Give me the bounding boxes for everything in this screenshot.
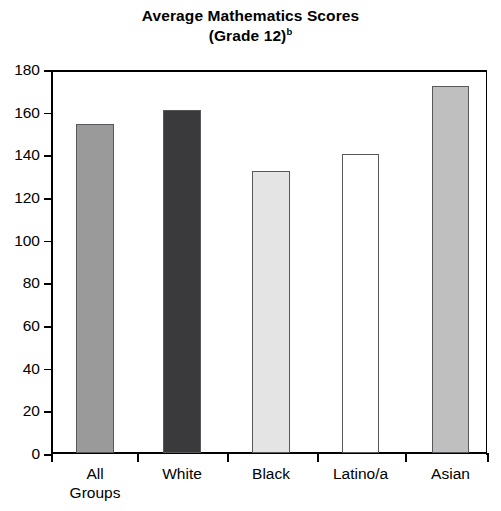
bar-latino-a <box>342 154 379 453</box>
x-axis-label-line1: White <box>162 465 202 482</box>
y-axis-line <box>51 70 53 455</box>
y-axis-tick-label: 120 <box>14 190 40 206</box>
y-axis-tick-label: 0 <box>31 446 40 462</box>
chart-subtitle: (Grade 12)b <box>0 26 501 46</box>
x-axis-label-line1: All <box>86 465 103 482</box>
y-axis-tick-label: 20 <box>23 404 40 420</box>
y-axis-tick <box>44 198 52 200</box>
chart-title-block: Average Mathematics Scores (Grade 12)b <box>0 6 501 46</box>
y-axis-tick-label: 80 <box>23 276 40 292</box>
x-axis-tick <box>487 453 489 462</box>
y-axis-tick <box>44 155 52 157</box>
bar-black <box>252 171 290 453</box>
x-axis-label-line1: Black <box>252 465 290 482</box>
plot-frame-right <box>486 70 488 455</box>
y-axis-tick <box>44 113 52 115</box>
x-axis-tick <box>227 453 229 462</box>
y-axis-tick <box>44 369 52 371</box>
x-axis-tick <box>317 453 319 462</box>
y-axis-tick-label: 140 <box>14 148 40 164</box>
y-axis-tick <box>44 70 52 72</box>
y-axis-tick-label: 60 <box>23 318 40 334</box>
chart-subtitle-text: (Grade 12) <box>209 27 287 44</box>
y-axis-tick <box>44 283 52 285</box>
bar-chart-figure: Average Mathematics Scores (Grade 12)b 0… <box>0 0 501 511</box>
x-axis-label-asian: Asian <box>391 464 501 483</box>
y-axis-tick-label: 100 <box>14 233 40 249</box>
y-axis-tick <box>44 326 52 328</box>
bar-all-groups <box>76 124 114 453</box>
x-axis-label-line1: Latino/a <box>333 465 388 482</box>
y-axis-tick-label: 180 <box>14 62 40 78</box>
page-title: Average Mathematics Scores <box>0 6 501 26</box>
plot-frame-top <box>51 70 487 72</box>
bar-white <box>163 110 201 453</box>
y-axis-tick <box>44 241 52 243</box>
x-axis-tick <box>51 453 53 462</box>
x-axis-label-line1: Asian <box>431 465 470 482</box>
y-axis-tick-label: 160 <box>14 105 40 121</box>
bar-asian <box>432 86 469 453</box>
y-axis-tick <box>44 411 52 413</box>
x-axis-label-line2: Groups <box>35 483 155 502</box>
plot-area: 020406080100120140160180 <box>51 70 487 454</box>
y-axis-tick-label: 40 <box>23 361 40 377</box>
chart-subtitle-footnote-marker: b <box>286 26 292 37</box>
x-axis-tick <box>405 453 407 462</box>
x-axis-tick <box>137 453 139 462</box>
